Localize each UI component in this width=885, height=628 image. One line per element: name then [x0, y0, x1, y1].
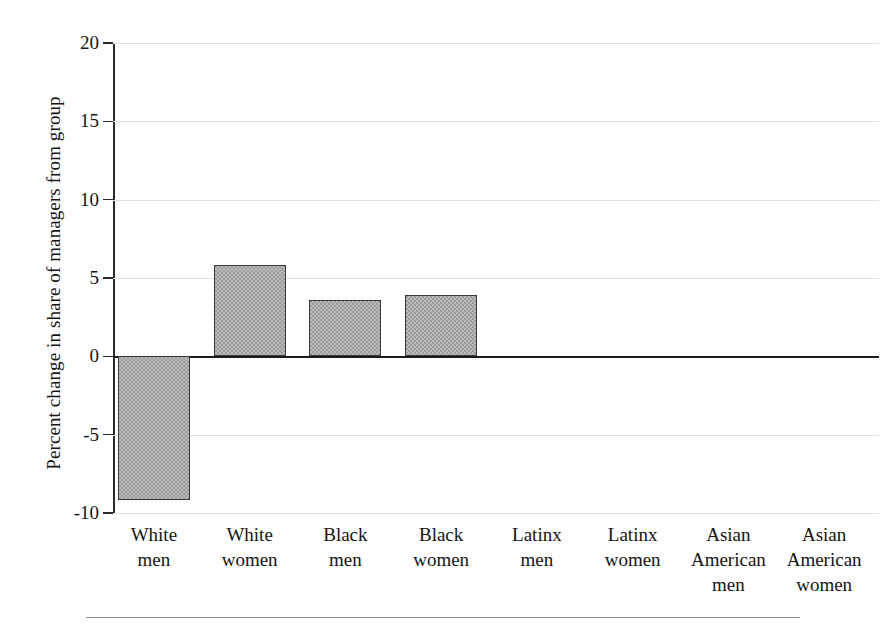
x-tick-label-line: women [393, 547, 489, 572]
y-axis-title: Percent change in share of managers from… [43, 43, 65, 523]
x-tick-label-line: Asian [776, 522, 872, 547]
x-tick-label-line: Black [393, 522, 489, 547]
bar [405, 295, 477, 356]
x-tick-label-line: women [202, 547, 298, 572]
x-tick-label-line: women [776, 572, 872, 597]
x-tick-label-line: Latinx [585, 522, 681, 547]
y-tick-label: 0 [90, 345, 100, 367]
gridline [113, 435, 879, 436]
x-tick-label-line: White [202, 522, 298, 547]
y-tick-mark [103, 199, 113, 201]
x-tick-label-line: men [681, 572, 777, 597]
bar [118, 356, 190, 500]
bar [309, 300, 381, 356]
bottom-divider-rule [86, 617, 800, 618]
bar [214, 265, 286, 356]
y-tick-label: 10 [80, 189, 99, 211]
y-tick-label: 5 [90, 267, 100, 289]
x-tick-label-line: Latinx [489, 522, 585, 547]
zero-baseline [113, 356, 879, 358]
gridline [113, 513, 879, 514]
x-tick-label-line: Black [298, 522, 394, 547]
y-tick-mark [103, 277, 113, 279]
x-tick-label-line: American [776, 547, 872, 572]
x-tick-label-line: women [585, 547, 681, 572]
x-tick-label: AsianAmericanwomen [776, 522, 872, 597]
gridline [113, 200, 879, 201]
gridline [113, 121, 879, 122]
x-tick-label: Blackmen [298, 522, 394, 572]
x-tick-label: Whitemen [106, 522, 202, 572]
y-tick-label: 15 [80, 110, 99, 132]
x-tick-label-line: Asian [681, 522, 777, 547]
x-tick-label: Latinxwomen [585, 522, 681, 572]
x-tick-label-line: American [681, 547, 777, 572]
y-tick-mark [103, 356, 113, 358]
plot-area: 20151050-5-10 [113, 43, 879, 513]
y-tick-mark [103, 512, 113, 514]
x-tick-label: Whitewomen [202, 522, 298, 572]
x-tick-label: AsianAmericanmen [681, 522, 777, 597]
gridline [113, 43, 879, 44]
y-tick-label: -5 [83, 424, 99, 446]
x-tick-label: Blackwomen [393, 522, 489, 572]
y-tick-mark [103, 42, 113, 44]
x-tick-label: Latinxmen [489, 522, 585, 572]
bar-chart-figure: Percent change in share of managers from… [0, 0, 885, 628]
x-tick-label-line: men [489, 547, 585, 572]
y-tick-mark [103, 434, 113, 436]
x-tick-label-line: men [106, 547, 202, 572]
x-tick-label-line: men [298, 547, 394, 572]
y-tick-label: -10 [74, 502, 99, 524]
y-tick-mark [103, 121, 113, 123]
x-tick-label-line: White [106, 522, 202, 547]
y-tick-label: 20 [80, 32, 99, 54]
